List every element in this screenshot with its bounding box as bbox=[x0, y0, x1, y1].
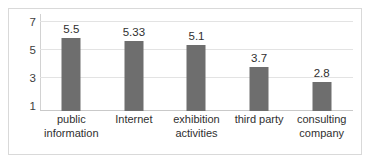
category-label: exhibition activities bbox=[165, 113, 228, 140]
bar[interactable] bbox=[124, 41, 143, 111]
bar[interactable] bbox=[250, 67, 269, 111]
bar-value-label: 5.5 bbox=[63, 23, 79, 35]
y-tick-label-1: 5 bbox=[14, 44, 36, 56]
plot-area: 5.55.335.13.72.8 bbox=[40, 14, 353, 111]
category-label: consulting company bbox=[290, 113, 353, 140]
category-label: third party bbox=[228, 113, 291, 127]
bar-group: 2.8 bbox=[290, 14, 353, 111]
bar-group: 3.7 bbox=[228, 14, 291, 111]
bar-value-label: 3.7 bbox=[251, 52, 267, 64]
bar-value-label: 5.1 bbox=[188, 30, 204, 42]
y-tick-label-2: 3 bbox=[14, 72, 36, 84]
category-label: public information bbox=[40, 113, 103, 140]
bar-value-label: 2.8 bbox=[314, 67, 330, 79]
bar-value-label: 5.33 bbox=[123, 26, 145, 38]
bars-layer: 5.55.335.13.72.8 bbox=[40, 14, 353, 111]
category-label: Internet bbox=[103, 113, 166, 127]
y-tick-label-0: 7 bbox=[14, 16, 36, 28]
bar-group: 5.5 bbox=[40, 14, 103, 111]
bar[interactable] bbox=[62, 38, 81, 111]
bar-chart: 7 5 3 1 5.55.335.13.72.8 public informat… bbox=[0, 0, 373, 165]
bar[interactable] bbox=[187, 45, 206, 111]
y-axis: 7 5 3 1 bbox=[8, 0, 36, 165]
y-tick-label-3: 1 bbox=[14, 100, 36, 112]
bar[interactable] bbox=[312, 82, 331, 111]
bar-group: 5.1 bbox=[165, 14, 228, 111]
bar-group: 5.33 bbox=[103, 14, 166, 111]
category-labels: public informationInternetexhibition act… bbox=[40, 113, 353, 153]
